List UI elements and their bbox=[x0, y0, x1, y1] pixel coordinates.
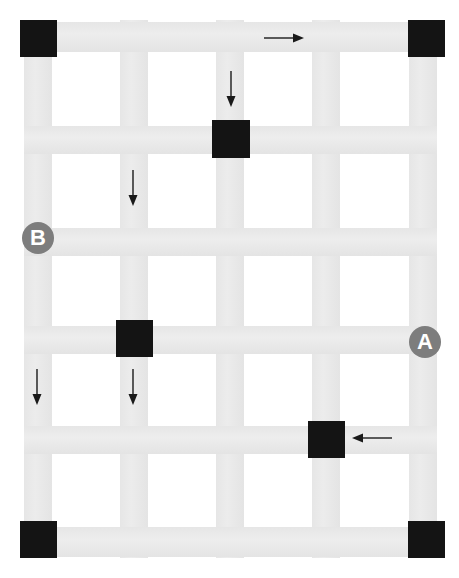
arrow-down-col1-lower-icon bbox=[29, 369, 45, 409]
node-lower-right[interactable] bbox=[308, 421, 345, 458]
arrow-left-bottom-icon bbox=[352, 430, 396, 446]
grid-line-vertical-1 bbox=[24, 20, 52, 558]
grid-line-horizontal-4 bbox=[24, 326, 437, 354]
diagram-canvas: B A bbox=[0, 0, 459, 578]
arrow-right-top-icon bbox=[264, 30, 308, 46]
node-mid-left[interactable] bbox=[116, 320, 153, 357]
node-top-left[interactable] bbox=[20, 20, 57, 57]
marker-b[interactable]: B bbox=[22, 222, 54, 254]
node-mid-upper[interactable] bbox=[212, 120, 250, 158]
grid-line-vertical-4 bbox=[312, 20, 340, 558]
node-top-right[interactable] bbox=[408, 20, 445, 57]
grid-line-horizontal-3 bbox=[24, 228, 437, 256]
marker-a[interactable]: A bbox=[409, 326, 441, 358]
arrow-down-col2-lower-icon bbox=[125, 369, 141, 409]
grid-line-horizontal-1 bbox=[24, 22, 437, 52]
node-bottom-right[interactable] bbox=[408, 521, 445, 558]
arrow-down-col2-upper-icon bbox=[125, 170, 141, 210]
grid-line-horizontal-6 bbox=[24, 527, 437, 557]
arrow-down-col3-top-icon bbox=[223, 71, 239, 111]
grid-line-vertical-5 bbox=[409, 20, 437, 558]
grid-line-vertical-2 bbox=[120, 20, 148, 558]
node-bottom-left[interactable] bbox=[20, 521, 57, 558]
